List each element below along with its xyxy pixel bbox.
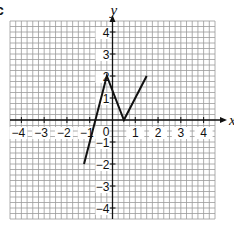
x-tick-label: −2 (57, 126, 71, 140)
y-tick-label: −2 (96, 158, 110, 172)
x-tick-label: 3 (177, 126, 184, 140)
axes: xy (10, 2, 234, 219)
x-tick-label: 2 (155, 126, 162, 140)
y-tick-label: −3 (96, 180, 110, 194)
y-tick-label: 3 (103, 48, 110, 62)
y-tick-label: 1 (103, 92, 110, 106)
x-tick-label: 4 (200, 126, 207, 140)
x-tick-label: 1 (132, 126, 139, 140)
y-axis-label: y (109, 2, 118, 18)
x-axis-label: x (228, 112, 234, 128)
tick-labels: −4−3−2−112344321−1−2−3−40 (9, 26, 212, 216)
x-tick-label: −4 (12, 126, 26, 140)
y-tick-label: 4 (103, 26, 110, 40)
y-tick-label: −4 (96, 202, 110, 216)
origin-label: 0 (103, 125, 110, 139)
x-tick-label: −3 (34, 126, 48, 140)
coordinate-plot: xy −4−3−2−112344321−1−2−3−40 (0, 0, 234, 238)
